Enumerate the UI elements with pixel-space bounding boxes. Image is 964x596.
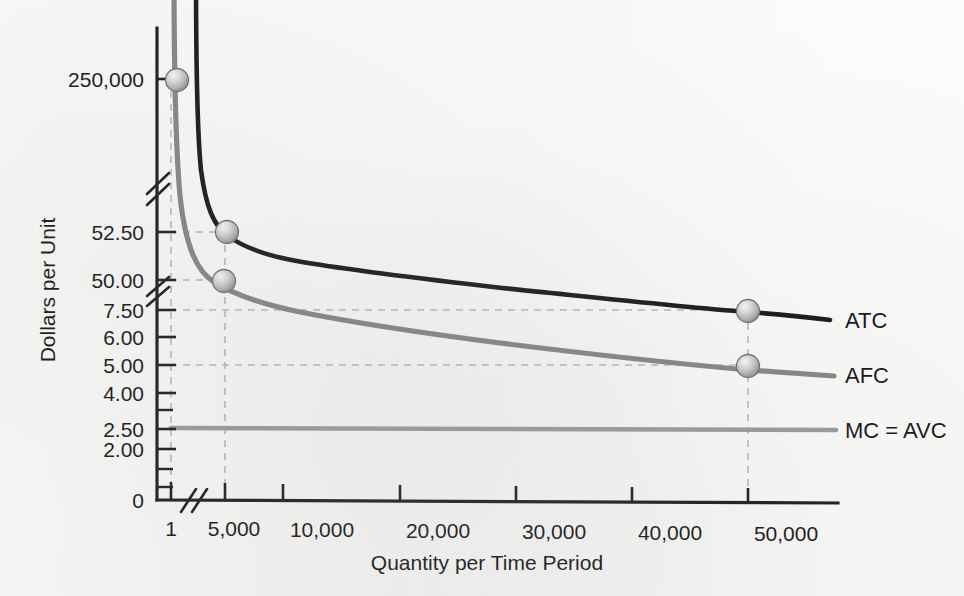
y-label-50-00: 50.00 [91,269,144,292]
chart-figure: 250,000 52.50 50.00 7.50 6.00 5.00 4.00 … [0,0,964,596]
x-axis-line [157,500,838,503]
y-label-origin: 0 [132,489,144,512]
marker-afc-q5000 [213,270,236,293]
y-label-6-00: 6.00 [103,326,144,349]
y-axis-tick-labels: 250,000 52.50 50.00 7.50 6.00 5.00 4.00 … [68,68,144,512]
mc-avc-curve [171,428,836,430]
y-label-52-50: 52.50 [91,221,144,244]
x-label-40000: 40,000 [638,521,702,544]
series-labels: ATC AFC MC = AVC [845,308,947,443]
atc-curve [196,0,830,320]
y-label-250000: 250,000 [68,68,144,91]
y-label-7-50: 7.50 [103,299,144,322]
afc-curve [174,0,834,376]
x-label-1: 1 [165,517,177,540]
x-axis-tick-labels: 1 5,000 10,000 20,000 30,000 40,000 50,0… [165,517,818,545]
cost-curves-chart: 250,000 52.50 50.00 7.50 6.00 5.00 4.00 … [0,0,964,596]
marker-atc-q50000 [737,300,760,323]
series-label-afc: AFC [845,363,889,388]
x-label-30000: 30,000 [522,520,586,543]
series-label-atc: ATC [845,308,887,333]
data-markers [166,69,760,378]
series-label-mc-avc: MC = AVC [845,418,947,443]
x-label-5000: 5,000 [208,517,261,540]
y-axis-title: Dollars per Unit [36,217,59,362]
guide-lines [157,78,759,500]
marker-afc-q50000 [737,355,760,378]
y-label-2-00: 2.00 [103,438,144,461]
x-label-10000: 10,000 [290,518,354,541]
x-axis-title: Quantity per Time Period [371,551,603,574]
marker-atc-q5000 [216,221,239,244]
y-label-4-00: 4.00 [103,382,144,405]
marker-afc-q1 [166,69,189,92]
x-label-50000: 50,000 [754,522,818,545]
x-label-20000: 20,000 [406,519,470,542]
y-label-5-00: 5.00 [103,354,144,377]
